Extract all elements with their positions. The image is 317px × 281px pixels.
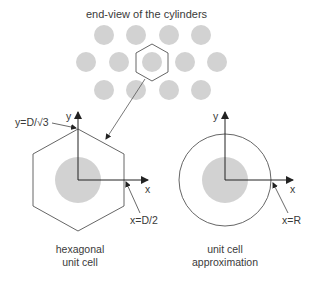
hex-y-axis-label: y <box>66 110 71 122</box>
circ-x-annotation: x=R <box>282 214 301 226</box>
circ-caption-line1: unit cell <box>180 243 270 256</box>
circ-caption: unit cell approximation <box>180 243 270 269</box>
hex-x-annotation: x=D/2 <box>130 214 158 226</box>
circ-y-axis-label: y <box>213 110 218 122</box>
circ-x-axis-label: x <box>290 183 295 195</box>
diagram-canvas <box>0 0 317 281</box>
hex-caption-line1: hexagonal <box>40 243 120 256</box>
hex-x-axis-label: x <box>145 183 150 195</box>
circular-unit-cell <box>179 112 293 226</box>
circ-caption-line2: approximation <box>180 256 270 269</box>
hex-caption: hexagonal unit cell <box>40 243 120 269</box>
hex-y-annotation: y=D/√3 <box>15 116 48 128</box>
hex-caption-line2: unit cell <box>40 256 120 269</box>
cylinder-array <box>76 25 227 100</box>
diagram-title: end-view of the cylinders <box>86 8 207 20</box>
